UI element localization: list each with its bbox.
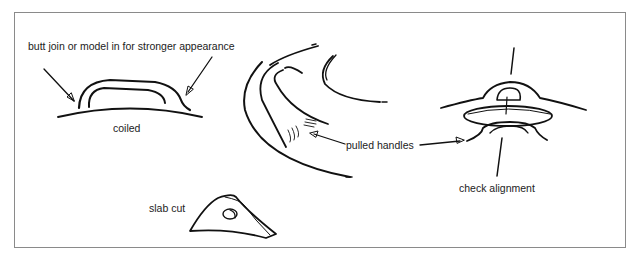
coiled-handle-illustration	[44, 57, 212, 117]
label-slab-cut: slab cut	[149, 202, 185, 214]
label-check-alignment: check alignment	[459, 182, 535, 194]
label-butt-join: butt join or model in for stronger appea…	[28, 40, 235, 52]
slab-cut-illustration	[190, 195, 276, 238]
label-coiled: coiled	[113, 122, 140, 134]
pulled-handles-illustration	[244, 44, 464, 177]
label-pulled-handles: pulled handles	[346, 139, 414, 151]
lid-alignment-illustration	[441, 48, 586, 176]
